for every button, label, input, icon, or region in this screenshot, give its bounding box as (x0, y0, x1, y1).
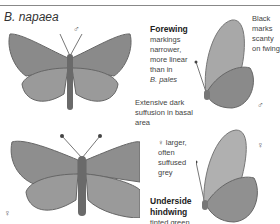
underside-text: tinted green (150, 218, 190, 224)
forewing-line: markings (150, 35, 180, 44)
black-marks-annotation: Black marks scanty on fwing (252, 14, 280, 54)
female-upperside-butterfly-illustration (4, 132, 140, 218)
underside-heading: hindwing (150, 207, 187, 217)
forewing-line: narrower, (150, 45, 181, 54)
male-upperside-butterfly-illustration (6, 28, 134, 110)
underside-annotation: Underside hindwing tinted green (150, 196, 192, 224)
forewing-line: more linear (150, 55, 188, 64)
top-rule (0, 5, 280, 6)
black-marks-line: scanty (252, 34, 274, 43)
forewing-heading: Forewing (150, 24, 188, 34)
female-underside-butterfly-illustration (196, 124, 262, 224)
suffusion-line: area (135, 118, 150, 127)
black-marks-line: on fwing (252, 44, 280, 53)
forewing-line: B. pales (150, 75, 177, 84)
female-line: ♀ larger, (158, 138, 187, 147)
black-marks-line: marks (252, 24, 272, 33)
suffusion-line: Extensive dark (135, 98, 184, 107)
suffusion-line: suffusion in basal (135, 108, 193, 117)
female-line: grey (158, 168, 173, 177)
female-symbol-underside: ♀ (257, 140, 264, 150)
male-underside-butterfly-illustration (192, 14, 258, 110)
suffusion-annotation: Extensive dark suffusion in basal area (135, 98, 193, 128)
forewing-line: than in (150, 65, 173, 74)
female-line: suffused (158, 158, 186, 167)
forewing-annotation: Forewing markings narrower, more linear … (150, 24, 188, 85)
species-title: B. napaea (4, 10, 59, 24)
underside-heading: Underside (150, 196, 192, 206)
black-marks-line: Black (252, 14, 270, 23)
female-line: often (158, 148, 175, 157)
female-annotation: ♀ larger, often suffused grey (158, 138, 187, 178)
female-symbol: ♀ (4, 208, 11, 218)
male-symbol-underside: ♂ (257, 100, 264, 110)
